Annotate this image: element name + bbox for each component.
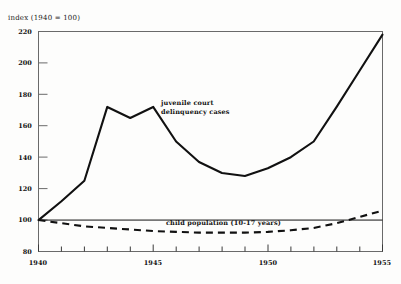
juvenile-court-delinquency-line <box>39 35 383 220</box>
y-tick-label-100: 100 <box>8 216 32 224</box>
y-tick-label-160: 160 <box>8 122 32 130</box>
series-label-juvenile-line1: juvenile court <box>161 99 230 108</box>
x-tick-label-1945: 1945 <box>138 259 168 267</box>
y-tick-label-120: 120 <box>8 185 32 193</box>
y-tick-label-140: 140 <box>8 154 32 162</box>
y-tick-label-80: 80 <box>8 248 32 256</box>
series-label-child-population: child population (10-17 years) <box>166 219 281 228</box>
x-tick-label-1950: 1950 <box>253 259 283 267</box>
series-label-juvenile-court: juvenile court delinquency cases <box>161 99 230 117</box>
chart-figure: index (1940 = 100) <box>0 0 401 284</box>
line-chart-plot <box>0 0 401 284</box>
y-tick-label-180: 180 <box>8 91 32 99</box>
y-tick-label-220: 220 <box>8 28 32 36</box>
x-axis-ticks <box>39 245 383 252</box>
series-label-juvenile-line2: delinquency cases <box>161 108 230 117</box>
y-tick-label-200: 200 <box>8 59 32 67</box>
x-tick-label-1955: 1955 <box>367 259 397 267</box>
x-tick-label-1940: 1940 <box>23 259 53 267</box>
